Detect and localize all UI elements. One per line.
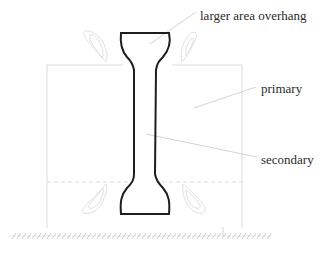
diagram-canvas bbox=[0, 0, 327, 264]
label-primary: primary bbox=[261, 82, 302, 95]
leader-primary bbox=[194, 87, 256, 108]
label-secondary: secondary bbox=[261, 153, 314, 166]
dogbone-specimen bbox=[121, 33, 170, 214]
overhang-support-lobes-bottom bbox=[82, 184, 205, 213]
primary-support-block bbox=[47, 65, 242, 228]
leader-overhang bbox=[150, 12, 196, 44]
label-larger-area-overhang: larger area overhang bbox=[200, 9, 307, 22]
leader-secondary bbox=[146, 134, 257, 157]
overhang-support-lobes-top bbox=[84, 31, 197, 62]
